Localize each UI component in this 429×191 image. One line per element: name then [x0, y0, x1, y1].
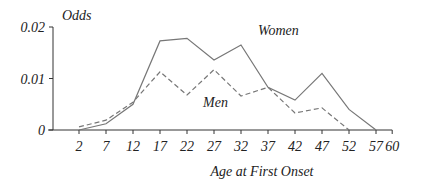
x-tick-label: 7 — [103, 139, 111, 154]
axes: 00.010.02271217222732374247525760 — [21, 20, 400, 154]
x-tick-label: 60 — [385, 139, 399, 154]
x-tick-label: 52 — [342, 139, 356, 154]
x-tick-label: 17 — [153, 139, 168, 154]
data-lines — [79, 38, 376, 130]
line-chart: 00.010.02271217222732374247525760 Odds W… — [0, 0, 429, 191]
x-tick-label: 37 — [260, 139, 276, 154]
series-label-men: Men — [202, 95, 228, 110]
x-tick-label: 2 — [76, 139, 83, 154]
y-tick-label: 0.01 — [21, 72, 46, 87]
x-tick-label: 42 — [288, 139, 302, 154]
x-tick-label: 12 — [126, 139, 140, 154]
x-axis-label: Age at First Onset — [209, 164, 314, 179]
series-label-women: Women — [258, 23, 299, 38]
y-axis-label: Odds — [62, 8, 92, 23]
x-tick-label: 47 — [315, 139, 330, 154]
y-tick-label: 0.02 — [21, 20, 46, 35]
x-tick-label: 32 — [233, 139, 248, 154]
x-tick-label: 27 — [207, 139, 222, 154]
x-tick-label: 57 — [369, 139, 384, 154]
x-tick-label: 22 — [180, 139, 194, 154]
y-tick-label: 0 — [38, 123, 45, 138]
